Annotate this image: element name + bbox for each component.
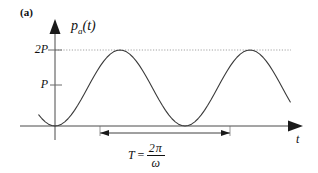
period-dimension-line <box>100 126 230 136</box>
x-axis-arrowhead <box>288 121 303 132</box>
period-formula-equals: = <box>137 148 145 163</box>
y-axis-label-main: p <box>71 18 78 33</box>
panel-label: (a) <box>20 6 33 18</box>
y-axis-label: pa(t) <box>71 18 96 36</box>
period-formula-numerator: 2π <box>147 142 165 155</box>
x-axis-label: t <box>296 132 299 147</box>
y-axis-arrowhead <box>50 19 61 34</box>
waveform-curve <box>39 50 291 126</box>
period-formula: T = 2π ω <box>128 142 165 169</box>
period-formula-fraction: 2π ω <box>147 142 165 169</box>
y-tick-label-P: P <box>20 77 48 92</box>
period-formula-lhs: T <box>128 148 135 163</box>
y-tick-label-2P: 2P <box>20 42 48 57</box>
y-axis-label-argument: (t) <box>83 18 96 33</box>
period-formula-denominator: ω <box>150 156 162 169</box>
